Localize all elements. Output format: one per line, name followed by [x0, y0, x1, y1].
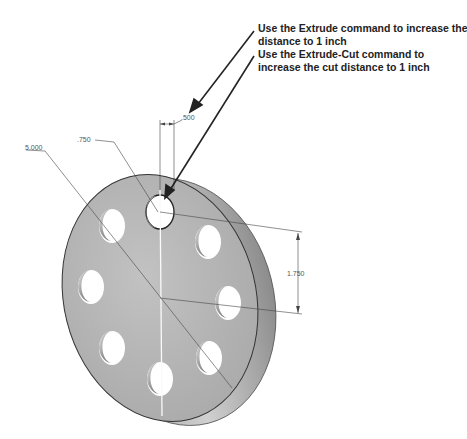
- hole-upper-right: [195, 225, 221, 259]
- callout-extrude-cut-line2: increase the cut distance to 1 inch: [258, 61, 430, 74]
- callout-extrude-cut-line1: Use the Extrude-Cut command to: [258, 48, 430, 61]
- callout-extrude: Use the Extrude command to increase the …: [258, 22, 467, 48]
- hole-right: [215, 286, 241, 320]
- dim-hole-diameter: .750: [77, 136, 91, 143]
- extrude-arrow: [198, 31, 254, 104]
- dim-outer-diameter: 5.000: [25, 144, 43, 151]
- dim-bolt-circle-radius: 1.750: [287, 270, 305, 277]
- extrude-cut-arrow: [170, 56, 254, 190]
- callout-extrude-line2: distance to 1 inch: [258, 35, 467, 48]
- hole-bottom: [147, 362, 173, 396]
- dim-thickness: .500: [181, 114, 195, 121]
- callout-extrude-cut: Use the Extrude-Cut command to increase …: [258, 48, 430, 74]
- callout-arrows: [165, 31, 254, 198]
- hole-lower-left: [99, 331, 125, 365]
- hole-upper-left: [99, 209, 125, 243]
- hole-left: [78, 270, 104, 304]
- callout-extrude-line1: Use the Extrude command to increase the: [258, 22, 467, 35]
